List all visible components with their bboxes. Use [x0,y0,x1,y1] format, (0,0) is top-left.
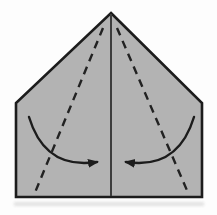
paper-drop-shadow [14,202,204,206]
diagram-canvas [0,0,217,215]
paper-shape [16,13,202,197]
origami-diagram [0,0,217,215]
